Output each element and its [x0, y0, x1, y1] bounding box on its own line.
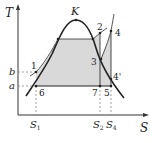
level-b-label: b	[9, 66, 15, 77]
point-4-label: 4	[115, 28, 121, 38]
tick-s1: S1	[30, 119, 41, 131]
point-6-label: 6	[39, 88, 45, 98]
point-7-label: 7	[92, 88, 98, 98]
ts-diagram: T S K 1 2 3 4 4' 5 6 7 b a S1 S2 S4	[0, 0, 152, 143]
point-3-label: 3	[91, 57, 97, 67]
point-2-label: 2	[97, 22, 103, 32]
x-axis-arrow-icon	[143, 113, 149, 117]
level-a-label: a	[9, 80, 15, 91]
tick-s2: S2	[93, 119, 104, 131]
point-1-label: 1	[31, 61, 37, 71]
x-axis-label: S	[140, 121, 148, 135]
y-axis-label: T	[5, 6, 14, 20]
point-4prime-label: 4'	[113, 72, 121, 82]
y-axis-arrow-icon	[16, 4, 20, 10]
tick-s4: S4	[106, 119, 117, 131]
critical-point-label: K	[70, 5, 80, 18]
point-5-label: 5	[104, 88, 110, 98]
